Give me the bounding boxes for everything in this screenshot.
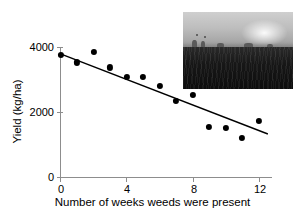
data-point bbox=[107, 64, 113, 70]
data-point bbox=[206, 124, 212, 130]
x-axis-tick-label-8: 8 bbox=[191, 184, 197, 195]
field-photograph-inset bbox=[183, 12, 293, 89]
x-axis-tick-label-12: 12 bbox=[254, 184, 266, 195]
photo-weedy-field bbox=[183, 47, 293, 89]
figure-bottom-margin bbox=[0, 214, 305, 219]
x-axis-tick-label-0: 0 bbox=[58, 184, 64, 195]
scatter-plot-figure: 4000 2000 0 0 4 8 12 Number of weeks wee… bbox=[0, 0, 305, 219]
data-point bbox=[223, 125, 229, 131]
data-point bbox=[157, 83, 163, 89]
x-axis-line bbox=[60, 177, 272, 178]
data-point bbox=[90, 49, 96, 55]
data-point bbox=[74, 59, 80, 65]
data-point bbox=[190, 92, 196, 98]
data-point bbox=[173, 98, 179, 104]
y-axis-title: Yield (kg/ha) bbox=[11, 52, 24, 172]
x-axis-tick-label-4: 4 bbox=[124, 184, 130, 195]
data-point bbox=[239, 135, 245, 141]
x-axis-tick-0 bbox=[60, 177, 61, 182]
photo-bird bbox=[204, 36, 206, 38]
y-axis-tick-4000 bbox=[57, 47, 63, 48]
y-axis-tick-label-0: 0 bbox=[8, 172, 54, 183]
x-axis-tick-8 bbox=[193, 177, 194, 182]
x-axis-tick-12 bbox=[259, 177, 260, 182]
data-point bbox=[256, 118, 262, 124]
x-axis-tick-4 bbox=[126, 177, 127, 182]
y-axis-tick-2000 bbox=[57, 112, 63, 113]
data-point bbox=[124, 74, 130, 80]
data-point bbox=[140, 74, 146, 80]
x-axis-title: Number of weeks weeds were present bbox=[0, 196, 305, 209]
